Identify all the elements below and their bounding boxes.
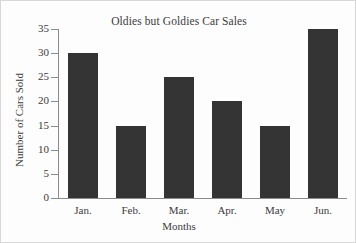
bar <box>116 126 146 198</box>
bar <box>308 29 338 198</box>
y-axis-tick-label: 0 <box>3 191 49 203</box>
x-axis-line <box>58 198 347 199</box>
x-axis-title: Months <box>1 220 356 232</box>
y-axis-tick <box>51 126 58 127</box>
bar <box>164 77 194 198</box>
y-axis-tick <box>51 101 58 102</box>
y-axis-tick-label: 20 <box>3 94 49 106</box>
y-axis-tick <box>51 174 58 175</box>
y-axis-tick <box>51 77 58 78</box>
y-axis-tick-label: 25 <box>3 70 49 82</box>
bar <box>68 53 98 198</box>
y-axis-tick-label: 10 <box>3 143 49 155</box>
y-axis-tick <box>51 150 58 151</box>
chart-title: Oldies but Goldies Car Sales <box>1 15 356 27</box>
plot-area <box>58 29 346 198</box>
y-axis-tick <box>51 29 58 30</box>
y-axis-tick-label: 5 <box>3 167 49 179</box>
x-axis-tick-label: Jun. <box>293 204 353 216</box>
y-axis-tick-label: 30 <box>3 46 49 58</box>
y-axis-tick-label: 15 <box>3 119 49 131</box>
y-axis-tick-label: 35 <box>3 22 49 34</box>
bar <box>212 101 242 198</box>
bar <box>260 126 290 198</box>
bar-chart-figure: Oldies but Goldies Car Sales 05101520253… <box>0 0 356 243</box>
y-axis-tick <box>51 53 58 54</box>
y-axis-title: Number of Cars Sold <box>13 40 25 200</box>
y-axis-tick <box>51 198 58 199</box>
